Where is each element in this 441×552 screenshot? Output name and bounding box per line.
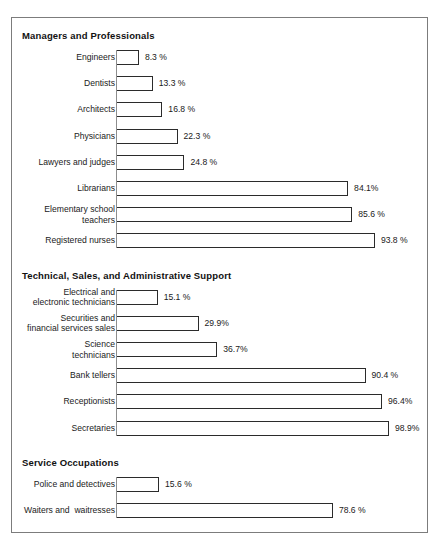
bar — [116, 233, 375, 248]
section-header-1: Managers and Professionals — [22, 30, 155, 41]
bar-value-label: 78.6 % — [339, 505, 366, 515]
bar-value-label: 29.9% — [205, 318, 229, 328]
bar-row: Engineers8.3 % — [12, 50, 427, 65]
bar-value-label: 8.3 % — [145, 52, 167, 62]
section-header-2: Technical, Sales, and Administrative Sup… — [22, 270, 231, 281]
bar — [116, 421, 389, 436]
chart-frame: Managers and ProfessionalsEngineers8.3 %… — [11, 17, 428, 533]
bar-label: Architects — [0, 104, 115, 115]
axis-baseline — [116, 290, 117, 436]
bar-row: Science technicians36.7% — [12, 342, 427, 357]
bar-value-label: 36.7% — [223, 344, 247, 354]
bar-row: Registered nurses93.8 % — [12, 233, 427, 248]
bar-value-label: 85.6 % — [358, 209, 385, 219]
bar — [116, 503, 333, 518]
bar — [116, 290, 158, 305]
bar-label: Physicians — [0, 131, 115, 142]
bar-value-label: 22.3 % — [184, 131, 211, 141]
bar — [116, 316, 199, 331]
bar-value-label: 13.3 % — [159, 78, 186, 88]
bar-label: Engineers — [0, 52, 115, 63]
bar-value-label: 93.8 % — [381, 235, 408, 245]
bar-row: Receptionists96.4% — [12, 394, 427, 409]
bar-label: Registered nurses — [0, 235, 115, 246]
bar — [116, 342, 217, 357]
bar-value-label: 98.9% — [395, 423, 419, 433]
bar-row: Lawyers and judges24.8 % — [12, 155, 427, 170]
bar-label: Police and detectives — [0, 479, 115, 490]
bar-label: Science technicians — [0, 339, 115, 360]
axis-baseline — [116, 477, 117, 518]
bar-row: Police and detectives15.6 % — [12, 477, 427, 492]
bar — [116, 368, 366, 383]
bar-label: Secretaries — [0, 423, 115, 434]
bar — [116, 102, 162, 117]
bar — [116, 76, 153, 91]
bar-label: Waiters and waitresses — [0, 505, 115, 516]
bar-row: Waiters and waitresses78.6 % — [12, 503, 427, 518]
bar-label: Elementary school teachers — [0, 204, 115, 225]
bar-row: Elementary school teachers85.6 % — [12, 207, 427, 222]
bar-value-label: 90.4 % — [372, 370, 399, 380]
bar-value-label: 96.4% — [388, 396, 412, 406]
bar-value-label: 24.8 % — [190, 157, 217, 167]
bar-row: Securities and financial services sales2… — [12, 316, 427, 331]
bar-value-label: 15.1 % — [164, 292, 191, 302]
bar-row: Secretaries98.9% — [12, 421, 427, 436]
bar-label: Lawyers and judges — [0, 157, 115, 168]
bar — [116, 394, 382, 409]
bar-row: Dentists13.3 % — [12, 76, 427, 91]
bar-label: Securities and financial services sales — [0, 313, 115, 334]
bar — [116, 129, 178, 144]
bar-label: Bank tellers — [0, 370, 115, 381]
bar — [116, 181, 348, 196]
bar-row: Physicians22.3 % — [12, 129, 427, 144]
bar — [116, 50, 139, 65]
bar — [116, 155, 184, 170]
bar-label: Receptionists — [0, 396, 115, 407]
bar-value-label: 84.1% — [354, 183, 378, 193]
bar-value-label: 16.8 % — [168, 104, 195, 114]
bar-row: Bank tellers90.4 % — [12, 368, 427, 383]
section-header-3: Service Occupations — [22, 457, 119, 468]
bar-label: Electrical and electronic technicians — [0, 287, 115, 308]
bar-row: Librarians84.1% — [12, 181, 427, 196]
bar-row: Architects16.8 % — [12, 102, 427, 117]
bar-value-label: 15.6 % — [165, 479, 192, 489]
bar-row: Electrical and electronic technicians15.… — [12, 290, 427, 305]
bar-label: Librarians — [0, 183, 115, 194]
bar — [116, 207, 352, 222]
bar-label: Dentists — [0, 78, 115, 89]
axis-baseline — [116, 50, 117, 248]
bar — [116, 477, 159, 492]
